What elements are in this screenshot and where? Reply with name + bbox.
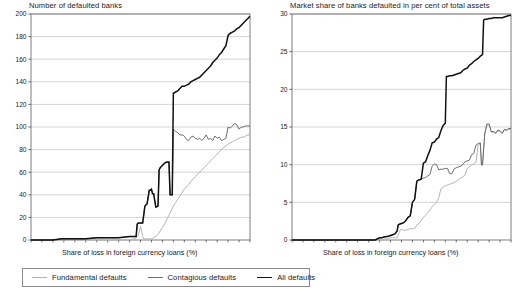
legend-label: Fundamental defaults bbox=[52, 273, 127, 282]
y-tick-label: 120 bbox=[15, 101, 26, 108]
legend-label: All defaults bbox=[277, 273, 315, 282]
x-tick-label: 15 bbox=[60, 244, 67, 247]
x-tick-label: 15 bbox=[321, 244, 328, 247]
x-tick-label: 100 bbox=[245, 244, 256, 247]
x-tick-label: 70 bbox=[442, 244, 449, 247]
figure-root: Number of defaulted banks 02040608010012… bbox=[0, 0, 522, 296]
x-tick-label: 45 bbox=[126, 244, 133, 247]
series-line-contagious-defaults bbox=[292, 124, 511, 240]
legend-swatch-all bbox=[257, 277, 272, 278]
chart-legend: Fundamental defaultsContagious defaultsA… bbox=[22, 268, 310, 287]
plot-area-right: 0510152025300510152025303540455055606570… bbox=[261, 10, 522, 246]
x-tick-label: 90 bbox=[225, 244, 232, 247]
panel-right-title: Market share of banks defaulted in per c… bbox=[290, 1, 490, 10]
x-tick-label: 40 bbox=[115, 244, 122, 247]
x-tick-label: 75 bbox=[192, 244, 199, 247]
y-tick-label: 180 bbox=[15, 33, 26, 40]
y-tick-label: 20 bbox=[280, 86, 288, 93]
legend-swatch-fundamental bbox=[32, 277, 47, 278]
x-tick-label: 5 bbox=[301, 244, 305, 247]
x-tick-label: 25 bbox=[82, 244, 89, 247]
x-tick-label: 10 bbox=[310, 244, 317, 247]
x-tick-label: 35 bbox=[104, 244, 111, 247]
x-tick-label: 55 bbox=[409, 244, 416, 247]
chart-panel-right: Market share of banks defaulted in per c… bbox=[261, 0, 522, 260]
y-tick-label: 5 bbox=[284, 199, 288, 206]
y-tick-label: 30 bbox=[280, 10, 288, 17]
x-tick-label: 5 bbox=[40, 244, 44, 247]
y-tick-label: 20 bbox=[19, 214, 27, 221]
x-tick-label: 10 bbox=[49, 244, 56, 247]
x-tick-label: 25 bbox=[343, 244, 350, 247]
y-tick-label: 40 bbox=[19, 191, 27, 198]
x-tick-label: 35 bbox=[365, 244, 372, 247]
panel-right-xaxis-label: Share of loss in foreign currency loans … bbox=[323, 248, 458, 257]
x-tick-label: 60 bbox=[159, 244, 166, 247]
x-tick-label: 95 bbox=[236, 244, 243, 247]
x-tick-label: 60 bbox=[420, 244, 427, 247]
y-tick-label: 15 bbox=[280, 123, 288, 130]
x-tick-label: 80 bbox=[203, 244, 210, 247]
y-tick-label: 0 bbox=[284, 236, 288, 243]
x-tick-label: 65 bbox=[431, 244, 438, 247]
x-tick-label: 70 bbox=[181, 244, 188, 247]
y-tick-label: 25 bbox=[280, 48, 288, 55]
x-tick-label: 95 bbox=[497, 244, 504, 247]
y-tick-label: 100 bbox=[15, 123, 26, 130]
x-tick-label: 55 bbox=[148, 244, 155, 247]
series-line-fundamental-defaults bbox=[31, 135, 250, 240]
panel-left-xaxis-label: Share of loss in foreign currency loans … bbox=[62, 248, 197, 257]
x-tick-label: 20 bbox=[332, 244, 339, 247]
x-tick-label: 50 bbox=[137, 244, 144, 247]
x-tick-label: 75 bbox=[453, 244, 460, 247]
legend-item: Contagious defaults bbox=[148, 273, 237, 282]
x-tick-label: 45 bbox=[387, 244, 394, 247]
x-tick-label: 90 bbox=[486, 244, 493, 247]
legend-item: Fundamental defaults bbox=[32, 273, 127, 282]
y-tick-label: 10 bbox=[280, 161, 288, 168]
legend-swatch-contagious bbox=[148, 277, 163, 278]
panel-left-title: Number of defaulted banks bbox=[29, 1, 122, 10]
series-line-all-defaults bbox=[292, 16, 511, 240]
legend-item: All defaults bbox=[257, 273, 315, 282]
x-tick-label: 30 bbox=[354, 244, 361, 247]
y-tick-label: 160 bbox=[15, 56, 26, 63]
x-tick-label: 85 bbox=[214, 244, 221, 247]
y-tick-label: 60 bbox=[19, 169, 27, 176]
x-tick-label: 0 bbox=[29, 244, 33, 247]
y-tick-label: 200 bbox=[15, 10, 26, 17]
chart-panel-left: Number of defaulted banks 02040608010012… bbox=[0, 0, 261, 260]
series-line-all-defaults bbox=[31, 16, 250, 240]
x-tick-label: 100 bbox=[506, 244, 517, 247]
x-tick-label: 50 bbox=[398, 244, 405, 247]
legend-label: Contagious defaults bbox=[168, 273, 237, 282]
x-tick-label: 30 bbox=[93, 244, 100, 247]
x-tick-label: 20 bbox=[71, 244, 78, 247]
x-tick-label: 40 bbox=[376, 244, 383, 247]
legend-items-container: Fundamental defaultsContagious defaultsA… bbox=[23, 269, 309, 286]
plot-area-left: 0204060801001201401601802000510152025303… bbox=[0, 10, 261, 246]
x-tick-label: 65 bbox=[170, 244, 177, 247]
y-tick-label: 0 bbox=[23, 236, 27, 243]
y-tick-label: 140 bbox=[15, 78, 26, 85]
x-tick-label: 85 bbox=[475, 244, 482, 247]
x-tick-label: 0 bbox=[290, 244, 294, 247]
y-tick-label: 80 bbox=[19, 146, 27, 153]
x-tick-label: 80 bbox=[464, 244, 471, 247]
